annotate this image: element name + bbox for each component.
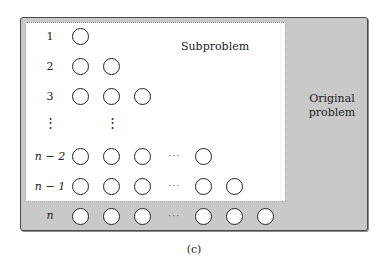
node-circle	[72, 178, 89, 195]
row-label-1: 1	[28, 30, 72, 43]
node-circle	[226, 178, 243, 195]
row-label-2: 2	[28, 60, 72, 73]
row-label-n: n	[28, 209, 72, 222]
row-label-3: 3	[28, 90, 72, 103]
node-circle	[103, 88, 120, 105]
horizontal-ellipsis: ···	[168, 180, 181, 191]
node-circle	[195, 178, 212, 195]
node-circle	[134, 208, 151, 225]
original-problem-label-line2: problem	[302, 106, 362, 119]
node-circle	[134, 178, 151, 195]
node-circle	[195, 148, 212, 165]
node-circle	[72, 28, 89, 45]
node-circle	[72, 148, 89, 165]
node-circle	[195, 208, 212, 225]
node-circle	[103, 178, 120, 195]
node-circle	[134, 148, 151, 165]
node-circle	[257, 208, 274, 225]
column-vdots: ⋮	[90, 115, 134, 130]
node-circle	[72, 88, 89, 105]
node-circle	[72, 208, 89, 225]
node-circle	[226, 208, 243, 225]
subproblem-label: Subproblem	[181, 40, 249, 53]
original-problem-label-line1: Original	[302, 92, 362, 105]
node-circle	[72, 58, 89, 75]
node-circle	[103, 58, 120, 75]
row-label-n-minus-2: n − 2	[28, 150, 72, 163]
horizontal-ellipsis: ···	[168, 150, 181, 161]
node-circle	[103, 208, 120, 225]
horizontal-ellipsis: ···	[168, 210, 181, 221]
row-label-n-minus-1: n − 1	[28, 180, 72, 193]
figure-caption: (c)	[0, 243, 388, 256]
node-circle	[103, 148, 120, 165]
node-circle	[134, 88, 151, 105]
row-label-vdots: ⋮	[28, 115, 72, 130]
